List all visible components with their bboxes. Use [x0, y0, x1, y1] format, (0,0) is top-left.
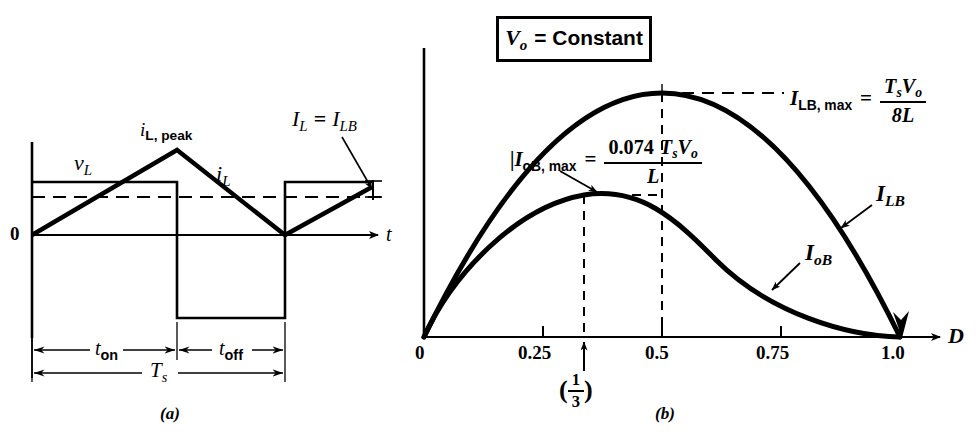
- panel-a-origin-label: 0: [10, 224, 20, 243]
- il-average-label: IL=ILB: [292, 108, 357, 134]
- iob-max-formula: |IoB, max=0.074TsVoL: [510, 137, 702, 186]
- panel-b-origin-label: 0: [415, 343, 425, 362]
- vl-waveform: [32, 182, 372, 318]
- curve-ilb-label: ILB: [876, 182, 905, 209]
- panel-b-xtick-label-0.25: 0.25: [518, 343, 551, 362]
- panel-b-xtick-label-0.5: 0.5: [645, 343, 669, 362]
- panel-b-xtick-label-1.0: 1.0: [881, 343, 905, 362]
- panel-b-xtick-label-0.75: 0.75: [756, 343, 789, 362]
- panel-b-d-axis-label: D: [948, 325, 964, 347]
- panel-a-caption: (a): [160, 405, 180, 422]
- vo-constant-box: Vo= Constant: [496, 16, 652, 62]
- ton-label: ton: [90, 338, 123, 362]
- curve-iob-leader-arrow: [772, 263, 800, 290]
- ts-label: Ts: [145, 360, 172, 384]
- panel-a-t-axis-label: t: [386, 224, 392, 244]
- toff-label: toff: [214, 338, 248, 362]
- il-peak-label: iL, peak: [140, 120, 192, 143]
- panel-b-caption: (b): [655, 405, 675, 422]
- il-label: iL: [216, 163, 230, 189]
- figure-root: 0 t vL iL iL, peak IL=ILB ton toff Ts (a…: [0, 0, 978, 445]
- curve-ilb-leader-arrow: [841, 205, 872, 228]
- vl-label: vL: [74, 152, 92, 178]
- one-third-annotation: (13): [559, 372, 593, 410]
- curve-iob-label: IoB: [805, 241, 832, 268]
- ilb-max-formula: ILB, max=TsVo8L: [790, 76, 926, 125]
